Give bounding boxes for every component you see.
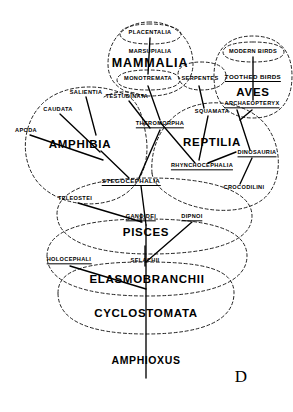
taxon-squamata: SQUAMATA (195, 109, 229, 115)
taxon-amphibia: AMPHIBIA (49, 138, 111, 150)
taxon-cyclostomata: CYCLOSTOMATA (94, 307, 198, 319)
taxon-elasmobranchii: ELASMOBRANCHII (89, 273, 204, 285)
taxon-marsupialia: MARSUPIALIA (129, 49, 172, 55)
taxon-dinosauria: DINOSAURIA (238, 150, 277, 157)
taxon-pisces: PISCES (123, 226, 169, 238)
branch-stego-amphibia (101, 151, 129, 178)
taxon-ganoidei: GANOIDEI (126, 214, 156, 221)
taxon-aves: AVES (236, 86, 269, 98)
phylogeny-branches (30, 38, 253, 378)
branch-archaeopteryx (240, 110, 252, 120)
taxon-theromorpha: THEROMORPHA (136, 121, 184, 128)
taxon-salientia: SALIENTIA (70, 90, 103, 96)
taxon-reptilia: REPTILIA (183, 136, 241, 148)
taxon-amphioxus: AMPHIOXUS (112, 355, 181, 366)
phylogeny-figure: PLACENTALIA MARSUPIALIA MAMMALIA MONOTRE… (0, 0, 293, 412)
taxon-modern-birds: MODERN BIRDS (229, 49, 277, 55)
taxon-archaeopteryx: ARCHAEOPTERYX (224, 101, 279, 108)
taxon-testudinata: TESTUDINATA (106, 94, 148, 100)
figure-letter: D (235, 367, 247, 387)
branch-stego-reptilia (139, 130, 160, 178)
taxon-selachii: SELACHII (131, 258, 160, 264)
taxon-holocephali: HOLOCEPHALI (47, 257, 92, 264)
taxon-teleostei: TELEOSTEI (58, 196, 92, 202)
branch-theromorpha-mammalia (148, 86, 160, 120)
taxon-crocodilini: CROCODILINI (224, 185, 265, 191)
taxon-caudata: CAUDATA (43, 107, 72, 113)
taxon-toothed-birds: TOOTHED BIRDS (225, 74, 281, 82)
taxon-stegocephalia: STEGOCEPHALIA (102, 178, 161, 186)
taxon-serpentes: SERPENTES (181, 76, 218, 82)
taxon-mammalia: MAMMALIA (112, 57, 189, 70)
branch-salientia (86, 97, 96, 135)
taxon-apoda: APODA (15, 128, 37, 134)
taxon-placentalia: PLACENTALIA (129, 30, 172, 36)
taxon-dipnoi: DIPNOI (181, 214, 202, 221)
branch-dinosauria-croc (240, 158, 252, 184)
taxon-rhynchocephalia: RHYNCHOCEPHALIA (171, 163, 233, 170)
taxon-monotremata: MONOTREMATA (124, 76, 172, 82)
